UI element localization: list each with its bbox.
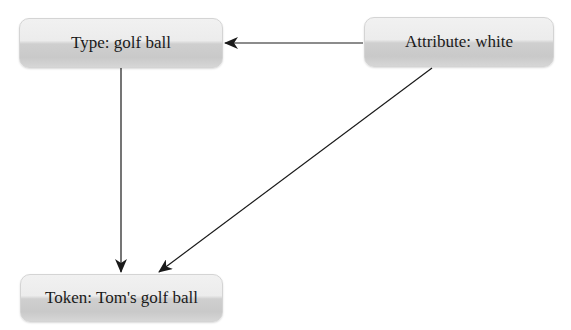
node-token: Token: Tom's golf ball xyxy=(20,274,223,322)
diagram-canvas: Type: golf ball Attribute: white Token: … xyxy=(0,0,571,330)
node-attribute-label: Attribute: white xyxy=(405,32,513,52)
node-token-label: Token: Tom's golf ball xyxy=(45,288,198,308)
node-attribute: Attribute: white xyxy=(364,17,554,67)
edge-attribute-to-token xyxy=(159,68,432,272)
node-type-label: Type: golf ball xyxy=(71,33,171,53)
node-type: Type: golf ball xyxy=(19,18,223,68)
